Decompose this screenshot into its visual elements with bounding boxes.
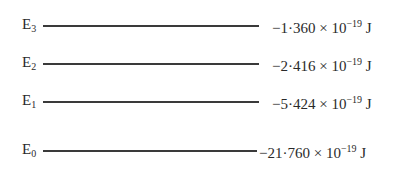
energy-level-e1: E1 −5·424 × 10−19 J bbox=[0, 90, 411, 110]
energy-level-e3: E3 −1·360 × 10−19 J bbox=[0, 14, 411, 34]
level-line bbox=[43, 63, 259, 65]
level-line bbox=[43, 101, 259, 103]
level-label: E2 bbox=[22, 52, 36, 77]
level-label: E3 bbox=[22, 14, 36, 39]
energy-level-e2: E2 −2·416 × 10−19 J bbox=[0, 52, 411, 72]
level-energy-value: −2·416 × 10−19 J bbox=[272, 52, 372, 76]
level-energy-value: −5·424 × 10−19 J bbox=[272, 90, 372, 114]
level-energy-value: −21·760 × 10−19 J bbox=[259, 139, 366, 163]
level-line bbox=[43, 25, 259, 27]
level-label: E0 bbox=[22, 139, 36, 164]
energy-level-e0: E0 −21·760 × 10−19 J bbox=[0, 139, 411, 159]
level-energy-value: −1·360 × 10−19 J bbox=[272, 14, 372, 38]
level-label: E1 bbox=[22, 90, 36, 115]
level-line bbox=[43, 150, 257, 152]
